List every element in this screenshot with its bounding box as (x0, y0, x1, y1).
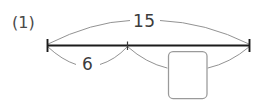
total-arc-right (160, 21, 249, 45)
answer-box[interactable] (169, 52, 208, 99)
unknown-part-arc-right (208, 47, 249, 68)
tape-diagram: (1) 15 6 (0, 0, 267, 102)
total-arc-left (48, 21, 130, 45)
unknown-part-arc-left (128, 47, 167, 68)
known-part-value-label: 6 (82, 54, 93, 74)
known-part-arc-left (48, 47, 76, 65)
problem-figure: (1) 15 6 (0, 0, 267, 102)
known-part-arc-right (100, 47, 127, 65)
total-value-label: 15 (133, 11, 156, 31)
item-number-label: (1) (12, 13, 35, 32)
